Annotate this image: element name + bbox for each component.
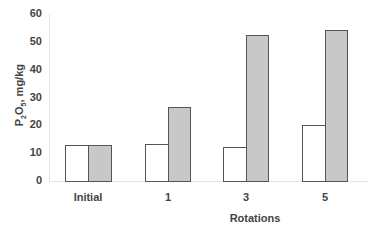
bar-3-series1 [223, 147, 247, 182]
y-axis-line [49, 14, 50, 182]
y-tick-60: 60 [18, 7, 42, 19]
y-tick-40: 40 [18, 63, 42, 75]
bar-5-series2 [325, 30, 348, 182]
x-tick-1: 1 [138, 191, 198, 203]
bar-chart: P2O5, mg/kg 60 50 40 30 20 10 0 Initial … [0, 0, 373, 234]
bar-5-series1 [302, 125, 326, 182]
x-tick-initial: Initial [58, 191, 118, 203]
x-tick-5: 5 [295, 191, 355, 203]
y-tick-20: 20 [18, 118, 42, 130]
bar-initial-series1 [65, 145, 89, 182]
bar-1-series1 [145, 144, 169, 182]
y-tick-30: 30 [18, 91, 42, 103]
bar-initial-series2 [88, 145, 112, 182]
bar-3-series2 [246, 35, 269, 182]
bar-1-series2 [168, 107, 191, 182]
y-tick-50: 50 [18, 35, 42, 47]
y-tick-10: 10 [18, 146, 42, 158]
y-tick-0: 0 [18, 174, 42, 186]
x-tick-3: 3 [216, 191, 276, 203]
x-axis-label: Rotations [205, 212, 305, 224]
